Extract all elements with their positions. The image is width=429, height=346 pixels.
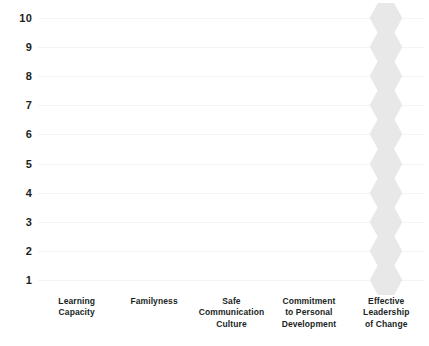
- gridline: [38, 18, 425, 19]
- gridline: [38, 47, 425, 48]
- gridline: [38, 76, 425, 77]
- chart-container: 10987654321 LearningCapacityFamilynessSa…: [0, 0, 429, 346]
- x-axis-category-line: Leadership: [348, 307, 425, 318]
- x-axis-category-line: Commitment: [270, 296, 347, 307]
- y-axis: 10987654321: [0, 18, 36, 280]
- gridline: [38, 222, 425, 223]
- y-tick-label: 3: [26, 216, 32, 227]
- gridline: [38, 251, 425, 252]
- y-tick-label: 10: [19, 13, 32, 24]
- y-tick-label: 9: [26, 42, 32, 53]
- y-tick-label: 7: [26, 100, 32, 111]
- x-axis-category-line: Familyness: [115, 296, 192, 307]
- x-axis-category-line: Culture: [193, 319, 270, 330]
- x-axis-category-label: EffectiveLeadershipof Change: [348, 296, 425, 330]
- gridline: [38, 280, 425, 281]
- y-tick-label: 5: [26, 158, 32, 169]
- x-axis-category-line: Communication: [193, 307, 270, 318]
- x-axis-category-line: Effective: [348, 296, 425, 307]
- x-axis-category-label: SafeCommunicationCulture: [193, 296, 270, 330]
- x-axis-category-line: of Change: [348, 319, 425, 330]
- y-tick-label: 2: [26, 245, 32, 256]
- y-tick-label: 1: [26, 275, 32, 286]
- gridline: [38, 134, 425, 135]
- plot-area: [38, 18, 425, 280]
- y-tick-label: 6: [26, 129, 32, 140]
- gridline: [38, 164, 425, 165]
- x-axis-category-label: Familyness: [115, 296, 192, 307]
- gridline: [38, 105, 425, 106]
- x-axis: LearningCapacityFamilynessSafeCommunicat…: [38, 296, 425, 342]
- x-axis-category-line: Capacity: [38, 307, 115, 318]
- x-axis-category-line: to Personal: [270, 307, 347, 318]
- gridline: [38, 193, 425, 194]
- y-tick-label: 8: [26, 71, 32, 82]
- y-tick-label: 4: [26, 187, 32, 198]
- x-axis-category-line: Learning: [38, 296, 115, 307]
- x-axis-category-label: Commitmentto PersonalDevelopment: [270, 296, 347, 330]
- x-axis-category-label: LearningCapacity: [38, 296, 115, 319]
- x-axis-category-line: Safe: [193, 296, 270, 307]
- x-axis-category-line: Development: [270, 319, 347, 330]
